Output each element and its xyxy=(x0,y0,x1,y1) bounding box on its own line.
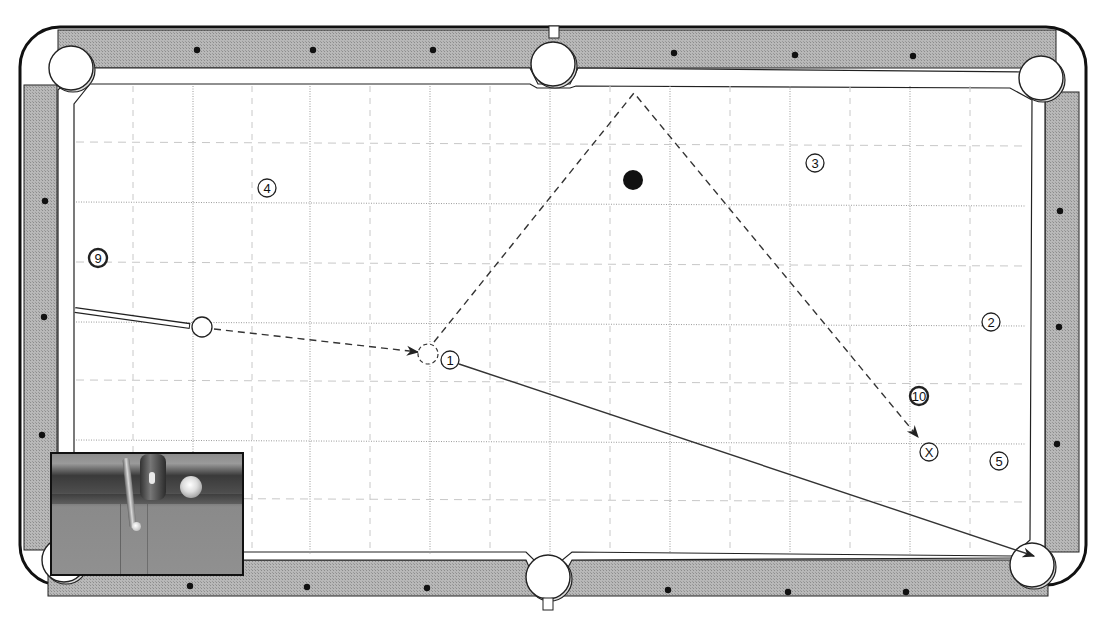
ball-4: 4 xyxy=(258,179,276,197)
black-ball xyxy=(623,170,643,190)
diamond-marker xyxy=(1056,324,1062,330)
diamond-marker xyxy=(1057,208,1063,214)
diamond-marker xyxy=(187,583,193,589)
cue-ball-icon xyxy=(192,317,212,337)
diamond-marker xyxy=(903,589,909,595)
black-ball-icon xyxy=(623,170,643,190)
rail-right xyxy=(1045,92,1079,552)
diamond-marker xyxy=(665,587,671,593)
pool-table-diagram: 12345910X xyxy=(0,0,1100,635)
ball-number: 5 xyxy=(995,454,1002,469)
ball-1: 1 xyxy=(441,351,459,369)
ball-number: 4 xyxy=(263,181,270,196)
inset-cloth-line xyxy=(147,504,148,576)
diamond-marker xyxy=(1054,441,1060,447)
ball-number: 3 xyxy=(811,156,818,171)
inset-cloth-line xyxy=(120,504,121,576)
diamond-marker xyxy=(304,584,310,590)
diamond-marker xyxy=(424,585,430,591)
ghost-ball-icon xyxy=(418,344,438,364)
inset-cue-tip xyxy=(132,522,141,531)
pocket-bottom-middle xyxy=(526,555,570,599)
ghost-ball xyxy=(418,344,438,364)
ball-10: 10 xyxy=(910,387,928,405)
cue-ball xyxy=(192,317,212,337)
ball-9: 9 xyxy=(89,249,107,267)
ball-number: 2 xyxy=(987,315,994,330)
diamond-marker xyxy=(194,47,200,53)
inset-cue-stick xyxy=(122,458,136,528)
ball-number: 1 xyxy=(446,353,453,368)
pocket-top-right xyxy=(1019,56,1063,100)
diamond-marker xyxy=(785,589,791,595)
ball-number: X xyxy=(925,445,934,460)
diamond-marker xyxy=(39,432,45,438)
diamond-marker xyxy=(792,52,798,58)
target-x: X xyxy=(920,443,938,461)
inset-hand-highlight xyxy=(149,472,155,484)
ball-number: 10 xyxy=(912,389,926,404)
ball-number: 9 xyxy=(94,251,101,266)
inset-photo xyxy=(50,452,244,576)
ball-3: 3 xyxy=(806,154,824,172)
inset-object-ball xyxy=(180,476,202,498)
pocket-top-left xyxy=(49,46,93,90)
ball-5: 5 xyxy=(990,452,1008,470)
pocket-tab-top xyxy=(549,26,559,38)
diamond-marker xyxy=(41,314,47,320)
pocket-top-middle xyxy=(531,42,575,86)
diamond-marker xyxy=(310,47,316,53)
ball-2: 2 xyxy=(982,313,1000,331)
pocket-tab-bottom xyxy=(543,598,553,610)
diamond-marker xyxy=(671,50,677,56)
diamond-marker xyxy=(430,47,436,53)
diamond-marker xyxy=(910,53,916,59)
diamond-marker xyxy=(42,198,48,204)
